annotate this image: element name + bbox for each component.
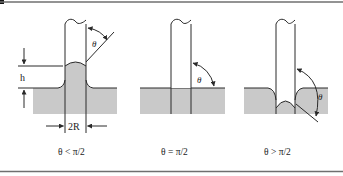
liquid-column	[276, 101, 295, 114]
panel-neutral: θ θ = π/2	[140, 19, 225, 157]
tube-interior	[171, 24, 191, 88]
liquid-bath	[295, 88, 328, 114]
theta-label: θ	[318, 92, 323, 102]
liquid-bath	[33, 80, 65, 114]
tangent-line	[86, 32, 114, 62]
liquid-bath	[86, 80, 117, 114]
theta-arc	[88, 28, 107, 40]
panel-hydrophilic: θ h 2R θ < π/2	[18, 19, 117, 157]
liquid-bath	[140, 88, 225, 114]
theta-label: θ	[92, 39, 97, 49]
liquid-surface	[33, 80, 65, 88]
theta-label: θ	[197, 75, 202, 85]
tube-break	[171, 19, 191, 24]
diameter-label: 2R	[68, 121, 80, 132]
liquid-bath	[244, 88, 276, 114]
caption: θ = π/2	[161, 147, 188, 157]
tube-break	[276, 19, 295, 24]
capillary-contact-angle-figure: θ h 2R θ < π/2 θ θ = π/2	[0, 0, 343, 176]
caption: θ < π/2	[58, 147, 85, 157]
tube-break	[65, 19, 86, 24]
panel-hydrophobic: θ θ > π/2	[244, 19, 328, 157]
height-label: h	[20, 72, 25, 83]
caption: θ > π/2	[264, 147, 291, 157]
liquid-surface	[86, 80, 117, 88]
liquid-column	[65, 62, 86, 114]
